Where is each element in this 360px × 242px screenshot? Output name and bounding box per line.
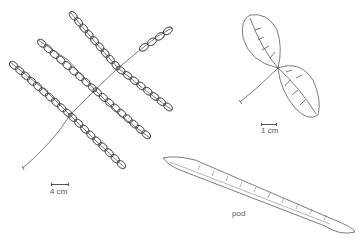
scale-bar-1cm <box>261 124 277 125</box>
scale-bar-4cm <box>51 184 69 185</box>
pod-caption: pod <box>232 210 245 218</box>
scale-label-4cm: 4 cm <box>50 188 67 196</box>
scale-label-1cm: 1 cm <box>261 127 278 135</box>
leaflets <box>8 10 174 170</box>
line-drawing <box>0 0 360 242</box>
botanical-illustration: 4 cm 1 cm pod <box>0 0 360 242</box>
leaflet-pair-drawing <box>239 15 319 118</box>
pod-drawing <box>163 157 355 233</box>
